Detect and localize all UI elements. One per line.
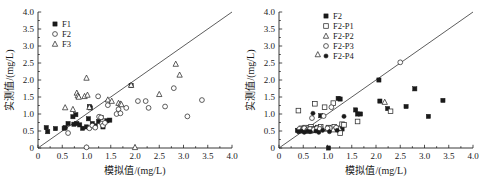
x-tick-label: 2.0 (370, 151, 382, 161)
data-point (382, 99, 387, 104)
data-point (354, 108, 358, 112)
y-tick-label: 3.5 (264, 24, 276, 34)
legend-marker-f1 (53, 22, 57, 26)
data-point (358, 112, 362, 116)
y-tick-label: 0.5 (264, 126, 276, 136)
data-point (327, 130, 331, 134)
data-point (46, 130, 50, 134)
series-f2-p3 (297, 60, 403, 133)
y-tick-label: 1.5 (23, 92, 35, 102)
x-tick-label: 1.5 (105, 151, 117, 161)
x-axis-title: 模拟值/(mg/L) (104, 164, 165, 177)
data-point (388, 109, 393, 114)
data-point (441, 98, 445, 102)
data-point (143, 99, 148, 104)
y-tick-label: 3.0 (264, 41, 276, 51)
data-point (342, 123, 347, 128)
data-point (93, 125, 98, 130)
x-tick-label: 3.5 (443, 151, 455, 161)
legend-label-f2-p2: F2-P2 (333, 31, 354, 41)
legend-label-f1: F1 (62, 19, 71, 29)
y-axis-ticks: 00.51.01.52.02.53.03.54.0 (23, 7, 41, 153)
legend-label-f3: F3 (62, 39, 71, 49)
y-tick-label: 2.0 (264, 75, 276, 85)
y-tick-label: 1.0 (23, 109, 35, 119)
data-point (378, 99, 382, 103)
legend-marker-f2 (324, 14, 328, 18)
data-point (342, 114, 346, 118)
data-point (118, 111, 123, 116)
y-tick-label: 0.5 (23, 126, 35, 136)
x-tick-label: 1.0 (81, 151, 93, 161)
chart-panel-right: 00.51.01.52.02.53.03.54.000.51.01.52.02.… (241, 0, 482, 181)
chart-panel-left: 00.51.01.52.02.53.03.54.000.51.01.52.02.… (0, 0, 241, 181)
legend-label-f2-p1: F2-P1 (333, 21, 354, 31)
y-axis-title: 实测值/(mg/L) (3, 49, 16, 110)
x-tick-label: 2.0 (129, 151, 141, 161)
data-point (296, 108, 301, 113)
data-point (404, 104, 408, 108)
data-point (310, 116, 315, 121)
y-tick-label: 2.5 (264, 58, 276, 68)
x-tick-label: 1.5 (346, 151, 358, 161)
data-point (53, 127, 57, 131)
data-point (124, 105, 129, 110)
y-tick-label: 1.5 (264, 92, 276, 102)
y-tick-label: 0 (271, 143, 276, 153)
legend-label-f2: F2 (333, 11, 342, 21)
data-point (317, 130, 321, 134)
data-point (66, 121, 70, 125)
data-point (99, 115, 104, 120)
x-tick-label: 0 (277, 151, 282, 161)
data-point (326, 146, 330, 150)
x-axis-title: 模拟值/(mg/L) (345, 164, 406, 177)
data-point (136, 99, 141, 104)
x-tick-label: 0 (36, 151, 41, 161)
x-axis-ticks: 00.51.01.52.02.53.03.54.0 (36, 145, 238, 161)
scatter-plot-right: 00.51.01.52.02.53.03.54.000.51.01.52.02.… (241, 0, 482, 181)
x-tick-label: 4.0 (226, 151, 238, 161)
data-point (103, 120, 108, 125)
data-point (157, 91, 162, 96)
y-tick-label: 4.0 (264, 7, 276, 17)
data-point (84, 75, 89, 80)
y-tick-label: 2.5 (23, 58, 35, 68)
data-point (426, 114, 430, 118)
data-point (177, 72, 182, 77)
data-point (81, 126, 85, 130)
data-point (173, 61, 178, 66)
data-point (66, 131, 71, 136)
legend-label-f2: F2 (62, 29, 71, 39)
data-point (171, 86, 176, 91)
data-point (108, 118, 112, 122)
y-tick-label: 0 (30, 143, 35, 153)
data-point (70, 106, 75, 111)
data-point (322, 105, 327, 110)
data-point (315, 52, 320, 57)
data-point (86, 117, 90, 121)
legend-marker-f2 (53, 32, 58, 37)
data-point (84, 145, 89, 150)
data-point (335, 128, 339, 132)
legend: F2F2-P1F2-P2F2-P3F2-P4 (323, 11, 354, 61)
x-tick-label: 4.0 (467, 151, 479, 161)
data-point (74, 113, 78, 117)
data-point (398, 60, 403, 65)
data-point (132, 144, 137, 149)
x-tick-label: 3.0 (178, 151, 190, 161)
x-tick-label: 3.0 (419, 151, 431, 161)
data-point (185, 114, 190, 119)
data-point (355, 119, 360, 124)
legend-label-f2-p3: F2-P3 (333, 41, 354, 51)
legend: F1F2F3 (52, 19, 71, 49)
data-point (163, 104, 168, 109)
data-point (321, 128, 325, 132)
y-tick-label: 2.0 (23, 75, 35, 85)
data-point (308, 130, 312, 134)
figure-container: 00.51.01.52.02.53.03.54.000.51.01.52.02.… (0, 0, 482, 181)
x-tick-label: 2.5 (154, 151, 166, 161)
data-point (63, 126, 67, 130)
series-f2-p2 (298, 52, 388, 134)
y-tick-label: 1.0 (264, 109, 276, 119)
data-point (200, 98, 205, 103)
